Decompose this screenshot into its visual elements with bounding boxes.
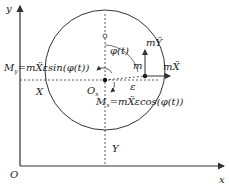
- rotor-diagram: y x O My=mẌεsin(φ(t)) Mx=mẌεcos(φ(t)) X …: [0, 0, 229, 187]
- center-point: [103, 78, 107, 82]
- Y-label: Y: [112, 143, 120, 154]
- phi-label: φ(t): [110, 45, 129, 56]
- x-axis-label: x: [219, 174, 225, 185]
- my-label: My=mẌεsin(φ(t)): [3, 62, 89, 75]
- top-marker: [103, 34, 107, 38]
- X-label: X: [35, 86, 44, 97]
- y-axis-label: y: [5, 3, 12, 14]
- center-label: Ox: [87, 85, 99, 97]
- eccentricity-label: ε: [130, 81, 135, 92]
- force-y-label: mŸ: [146, 37, 163, 48]
- force-x-label: mẌ: [163, 61, 180, 72]
- origin-label: O: [10, 169, 18, 180]
- mx-label: Mx=mẌεcos(φ(t)): [95, 96, 183, 108]
- mass-label: m: [133, 60, 142, 71]
- my-moment-arrow: [97, 68, 112, 73]
- eccentricity-line: [105, 76, 145, 80]
- mx-moment-arrow: [111, 82, 114, 92]
